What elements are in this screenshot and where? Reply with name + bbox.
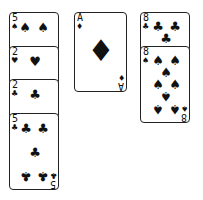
spade-icon: ♠ — [152, 103, 164, 116]
club-icon: ♣ — [37, 170, 49, 183]
diamond-icon: ♦ — [76, 23, 83, 31]
diamond-icon: ♦ — [88, 36, 115, 66]
card-8-of-spades[interactable]: 8 ♠ ♠ ♠ ♠ ♠ ♠ ♠ ♠ ♠ ♠ 8 — [140, 46, 190, 123]
heart-icon: ♥ — [29, 55, 41, 68]
club-icon: ♣ — [29, 88, 41, 101]
diamond-icon: ♦ — [118, 73, 125, 81]
club-icon: ♣ — [29, 146, 41, 159]
club-icon: ♣ — [11, 90, 18, 98]
card-rank: 5 — [50, 179, 56, 189]
spade-icon: ♠ — [11, 23, 18, 31]
card-ace-of-diamonds[interactable]: A ♦ ♦ ♦ A — [74, 12, 127, 92]
spade-icon: ♠ — [169, 103, 181, 116]
spade-icon: ♠ — [142, 57, 149, 65]
spade-icon: ♠ — [19, 21, 31, 34]
club-icon: ♣ — [37, 122, 49, 135]
spade-icon: ♠ — [181, 104, 188, 112]
card-rank: 8 — [181, 112, 187, 122]
club-icon: ♣ — [20, 170, 32, 183]
card-rank: A — [118, 81, 124, 91]
club-icon: ♣ — [20, 122, 32, 135]
club-icon: ♣ — [50, 171, 57, 179]
club-icon: ♣ — [160, 32, 172, 45]
card-5-of-clubs[interactable]: 5 ♣ ♣ ♣ ♣ ♣ ♣ ♣ 5 — [9, 113, 59, 190]
spade-icon: ♠ — [37, 21, 49, 34]
club-icon: ♣ — [11, 124, 18, 132]
heart-icon: ♥ — [11, 57, 18, 65]
club-icon: ♣ — [142, 23, 149, 31]
